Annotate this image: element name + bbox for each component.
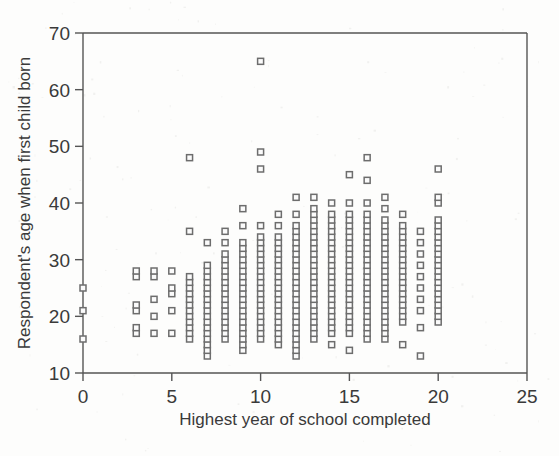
noise-speck (502, 8, 504, 10)
data-point (151, 313, 157, 319)
data-point (169, 268, 175, 274)
data-point (293, 211, 299, 217)
data-point (240, 206, 246, 212)
noise-speck (8, 82, 9, 83)
noise-speck (358, 138, 360, 139)
noise-speck (428, 305, 429, 306)
noise-speck (495, 349, 496, 350)
data-point (417, 353, 423, 359)
noise-speck (457, 138, 459, 140)
noise-speck (30, 354, 31, 356)
noise-speck (502, 29, 504, 30)
data-point (364, 200, 370, 206)
scatter-plot-figure: 10203040506070 0510152025 Highest year o… (0, 0, 559, 456)
data-point (187, 155, 193, 161)
noise-speck (363, 441, 364, 442)
noise-speck (101, 286, 102, 287)
noise-speck (84, 94, 86, 96)
data-point (169, 308, 175, 314)
noise-speck (125, 439, 126, 441)
noise-speck (215, 24, 216, 25)
data-point (382, 217, 388, 223)
noise-speck (145, 450, 146, 452)
noise-speck (103, 116, 104, 118)
data-point (275, 211, 281, 217)
data-point (329, 200, 335, 206)
data-point (80, 308, 86, 314)
noise-speck (387, 365, 389, 367)
data-point (417, 262, 423, 268)
noise-speck (388, 201, 389, 202)
noise-speck (129, 7, 131, 9)
noise-speck (494, 415, 495, 416)
data-point (204, 240, 210, 246)
noise-speck (463, 72, 464, 73)
noise-speck (195, 216, 197, 217)
noise-speck (254, 87, 255, 88)
noise-speck (207, 187, 210, 189)
noise-speck (189, 143, 190, 144)
data-point (222, 251, 228, 257)
noise-speck (461, 283, 463, 285)
noise-speck (93, 93, 95, 95)
noise-speck (341, 227, 342, 229)
data-point (364, 155, 370, 161)
noise-speck (100, 61, 102, 63)
data-point (417, 285, 423, 291)
noise-speck (485, 345, 487, 346)
noise-speck (342, 246, 344, 247)
noise-speck (336, 356, 337, 358)
noise-speck (213, 252, 215, 254)
data-point (151, 268, 157, 274)
data-point (133, 325, 139, 331)
noise-speck (128, 293, 130, 294)
noise-speck (221, 97, 223, 98)
noise-speck (499, 451, 501, 452)
noise-speck (252, 240, 254, 241)
noise-speck (442, 307, 444, 308)
data-point (382, 206, 388, 212)
noise-speck (97, 412, 98, 413)
noise-speck (41, 97, 43, 98)
noise-speck (114, 327, 115, 328)
noise-speck (548, 378, 550, 380)
data-point (169, 285, 175, 291)
noise-speck (122, 393, 123, 395)
data-point (417, 274, 423, 280)
noise-speck (466, 221, 467, 222)
noise-speck (69, 188, 71, 190)
data-point (400, 211, 406, 217)
data-point (400, 223, 406, 229)
noise-speck (228, 365, 230, 366)
data-point (435, 166, 441, 172)
noise-speck (168, 220, 169, 221)
data-point (364, 177, 370, 183)
noise-speck (147, 448, 149, 449)
noise-speck (105, 270, 107, 271)
data-point (151, 296, 157, 302)
data-point (417, 251, 423, 257)
noise-speck (149, 9, 150, 11)
data-point (151, 330, 157, 336)
noise-speck (515, 218, 517, 220)
noise-speck (353, 379, 355, 381)
data-point (346, 211, 352, 217)
noise-speck (90, 158, 92, 160)
noise-speck (184, 7, 186, 8)
noise-speck (271, 294, 272, 295)
y-tick-label-70: 70 (49, 23, 70, 44)
data-point (187, 228, 193, 234)
noise-speck (151, 209, 152, 210)
noise-speck (501, 321, 502, 322)
data-point (293, 194, 299, 200)
data-point (222, 228, 228, 234)
noise-speck (518, 213, 520, 214)
data-point (169, 330, 175, 336)
noise-speck (177, 70, 179, 71)
data-point (293, 223, 299, 229)
noise-speck (410, 445, 411, 446)
noise-speck (505, 362, 507, 364)
data-point (133, 302, 139, 308)
noise-speck (62, 13, 63, 15)
noise-speck (106, 216, 108, 217)
